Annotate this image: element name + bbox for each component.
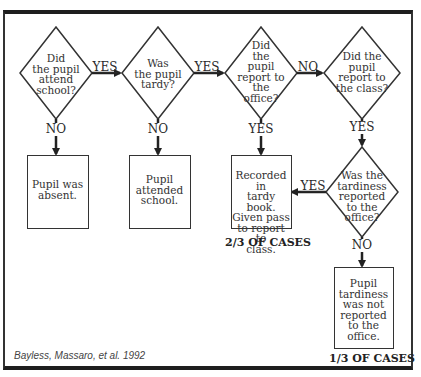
outcome-recorded-box: Recorded in tardy book. Given pass to re… xyxy=(231,155,292,229)
decision-tardiness-text: Was the tardiness reported to the office… xyxy=(332,170,392,223)
decision-attend-text: Did the pupil attend school? xyxy=(26,53,86,95)
cases-label-not-reported: 1/3 OF CASES xyxy=(329,352,415,365)
label-attend-no: NO xyxy=(41,123,71,135)
decision-office-text: Did the pupil report to the office? xyxy=(231,40,291,103)
outcome-not-reported-text: Pupil tardiness was not reported to the … xyxy=(335,278,392,341)
label-tardy-no: NO xyxy=(143,123,173,135)
label-tardiness-no: NO xyxy=(347,239,377,251)
decision-class-text: Did the pupil report to the class? xyxy=(332,51,392,93)
label-office-no: NO xyxy=(295,61,321,73)
decision-tardy-text: Was the pupil tardy? xyxy=(128,58,188,90)
label-office-yes: YES xyxy=(246,123,276,135)
citation: Bayless, Massaro, et al. 1992 xyxy=(14,350,145,361)
cases-label-recorded: 2/3 OF CASES xyxy=(225,236,311,249)
label-attend-yes: YES xyxy=(90,61,120,73)
label-class-yes: YES xyxy=(347,121,377,133)
outcome-not-reported-box: Pupil tardiness was not reported to the … xyxy=(334,267,394,349)
outcome-absent-box: Pupil was absent. xyxy=(27,155,89,229)
outcome-attended-text: Pupil attended school. xyxy=(130,174,189,206)
label-tardiness-yes: YES xyxy=(299,180,327,192)
outcome-attended-box: Pupil attended school. xyxy=(129,155,191,229)
outcome-absent-text: Pupil was absent. xyxy=(28,179,87,200)
label-tardy-yes: YES xyxy=(192,61,222,73)
